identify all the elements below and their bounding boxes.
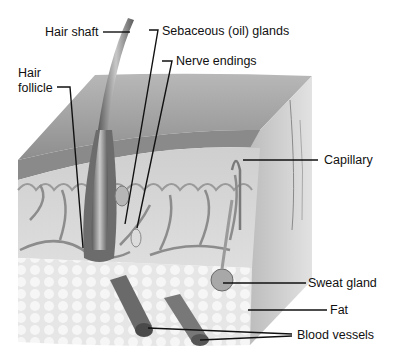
label-sebaceous-glands: Sebaceous (oil) glands	[162, 24, 289, 38]
label-fat: Fat	[330, 303, 348, 317]
label-nerve-endings: Nerve endings	[176, 54, 257, 68]
sebaceous-gland	[115, 186, 129, 206]
label-hair-follicle-line2: follicle	[18, 81, 53, 95]
label-hair-shaft: Hair shaft	[45, 25, 99, 39]
label-capillary: Capillary	[324, 153, 373, 167]
label-sweat-gland: Sweat gland	[308, 276, 377, 290]
label-hair-follicle-line1: Hair	[18, 66, 41, 80]
label-blood-vessels: Blood vessels	[297, 328, 374, 342]
nerve-ending	[131, 229, 141, 247]
